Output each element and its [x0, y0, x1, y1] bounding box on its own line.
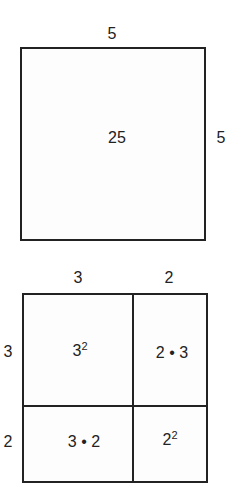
horizontal-divider: [22, 405, 208, 407]
vertical-divider: [132, 293, 134, 483]
square-side-label: 5: [211, 130, 231, 146]
expanded-square: [22, 293, 208, 483]
cell-bottom-right: 22: [150, 432, 190, 448]
top-label-2: 2: [159, 270, 179, 286]
top-label-3: 3: [68, 270, 88, 286]
side-label-3: 3: [0, 344, 16, 360]
square-top-label: 5: [102, 26, 122, 42]
cell-top-left: 32: [60, 343, 100, 359]
square-area-label: 25: [100, 130, 134, 146]
cell-bottom-left: 3 • 2: [52, 434, 116, 450]
side-label-2: 2: [0, 434, 16, 450]
cell-top-right: 2 • 3: [140, 345, 204, 361]
